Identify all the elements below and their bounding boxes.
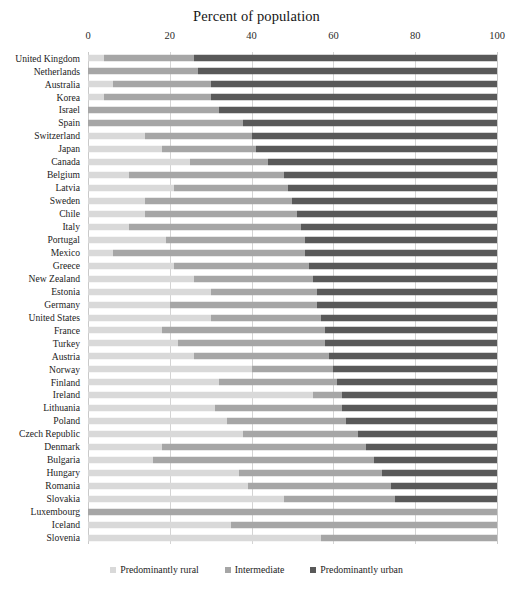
bar-segment-urban: [333, 366, 497, 373]
bar-segment-rural: [88, 55, 104, 62]
bar-segment-urban: [366, 444, 497, 451]
bar-row: [88, 259, 497, 272]
bar-row: [88, 91, 497, 104]
stacked-bar: [88, 521, 497, 528]
stacked-bar-chart: Percent of population 020406080100 Unite…: [0, 0, 513, 603]
legend-swatch-intermediate: [225, 567, 231, 573]
y-axis-label: Italy: [0, 220, 84, 233]
x-tick-label: 60: [328, 30, 339, 41]
bar-segment-rural: [88, 275, 194, 282]
stacked-bar: [88, 81, 497, 88]
stacked-bar: [88, 172, 497, 179]
bar-row: [88, 428, 497, 441]
bar-segment-urban: [342, 405, 497, 412]
stacked-bar: [88, 210, 497, 217]
bar-segment-rural: [88, 392, 313, 399]
bar-segment-intermediate: [104, 55, 194, 62]
bar-segment-intermediate: [162, 327, 326, 334]
y-axis-label: Romania: [0, 479, 84, 492]
bar-segment-rural: [88, 94, 104, 101]
bar-segment-intermediate: [129, 223, 301, 230]
bar-segment-rural: [88, 172, 129, 179]
bar-segment-rural: [88, 288, 211, 295]
bar-segment-urban: [382, 469, 497, 476]
bar-segment-rural: [88, 81, 113, 88]
bar-segment-urban: [317, 301, 497, 308]
bar-segment-urban: [358, 431, 497, 438]
bar-row: [88, 104, 497, 117]
bar-segment-urban: [321, 314, 497, 321]
bar-segment-intermediate: [215, 405, 342, 412]
bar-segment-urban: [211, 81, 497, 88]
bar-segment-intermediate: [174, 262, 309, 269]
stacked-bar: [88, 133, 497, 140]
bar-row: [88, 220, 497, 233]
bar-segment-urban: [309, 262, 497, 269]
bar-segment-urban: [268, 159, 497, 166]
plot-area: [88, 52, 497, 544]
bar-row: [88, 376, 497, 389]
legend-label: Intermediate: [235, 564, 285, 575]
bar-segment-intermediate: [88, 107, 219, 114]
stacked-bar: [88, 314, 497, 321]
bar-row: [88, 246, 497, 259]
stacked-bar: [88, 94, 497, 101]
stacked-bar: [88, 327, 497, 334]
stacked-bar: [88, 236, 497, 243]
y-axis-label: Hungary: [0, 467, 84, 480]
y-axis-label: Ireland: [0, 389, 84, 402]
bar-row: [88, 182, 497, 195]
stacked-bar: [88, 508, 497, 515]
bar-row: [88, 143, 497, 156]
y-axis-label: Korea: [0, 91, 84, 104]
y-axis-label: Finland: [0, 376, 84, 389]
bar-rows: [88, 52, 497, 544]
bar-segment-urban: [329, 353, 497, 360]
legend-item[interactable]: Intermediate: [225, 564, 285, 575]
bar-segment-urban: [301, 223, 497, 230]
x-tick-label: 40: [246, 30, 257, 41]
bar-segment-urban: [194, 55, 497, 62]
bar-segment-urban: [305, 249, 497, 256]
y-axis-label: Iceland: [0, 518, 84, 531]
bar-segment-intermediate: [243, 431, 358, 438]
bar-segment-rural: [88, 379, 219, 386]
bar-segment-intermediate: [145, 197, 292, 204]
y-axis-label: Estonia: [0, 285, 84, 298]
bar-row: [88, 505, 497, 518]
stacked-bar: [88, 249, 497, 256]
bar-row: [88, 415, 497, 428]
bar-segment-intermediate: [113, 249, 305, 256]
y-axis-label: Latvia: [0, 182, 84, 195]
bar-segment-urban: [288, 185, 497, 192]
gridline: [497, 52, 498, 544]
y-axis-label: Turkey: [0, 337, 84, 350]
y-axis-category-labels: United KingdomNetherlandsAustraliaKoreaI…: [0, 52, 84, 544]
stacked-bar: [88, 418, 497, 425]
bar-row: [88, 233, 497, 246]
stacked-bar: [88, 366, 497, 373]
bar-segment-urban: [325, 327, 497, 334]
y-axis-label: Japan: [0, 143, 84, 156]
bar-segment-rural: [88, 469, 239, 476]
y-axis-label: United States: [0, 311, 84, 324]
stacked-bar: [88, 457, 497, 464]
bar-segment-urban: [243, 120, 497, 127]
y-axis-label: Spain: [0, 117, 84, 130]
legend-swatch-rural: [110, 567, 116, 573]
bar-row: [88, 311, 497, 324]
legend-item[interactable]: Predominantly urban: [310, 564, 402, 575]
bar-segment-urban: [346, 418, 497, 425]
bar-segment-urban: [198, 68, 497, 75]
legend-item[interactable]: Predominantly rural: [110, 564, 199, 575]
bar-segment-intermediate: [145, 133, 251, 140]
y-axis-label: Netherlands: [0, 65, 84, 78]
stacked-bar: [88, 431, 497, 438]
bar-segment-intermediate: [194, 275, 313, 282]
bar-segment-intermediate: [252, 366, 334, 373]
bar-row: [88, 117, 497, 130]
x-axis: 020406080100: [0, 30, 513, 46]
y-axis-label: Czech Republic: [0, 428, 84, 441]
y-axis-label: New Zealand: [0, 272, 84, 285]
bar-row: [88, 479, 497, 492]
